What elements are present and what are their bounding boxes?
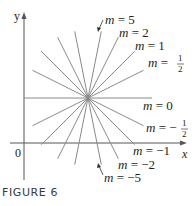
label-m-half: m = 1 2 — [148, 53, 184, 74]
label-m-neg-half: m = − 1 2 — [146, 118, 188, 139]
m5-leader-arrow-icon — [97, 27, 101, 32]
svg-text:2: 2 — [182, 129, 187, 139]
svg-text:1: 1 — [182, 118, 187, 128]
slope-family-diagram: y x 0 m = 5 m = 2 m = 1 m = 1 2 m = 0 m … — [0, 0, 195, 206]
m-neg5-leader-arrow-icon — [97, 163, 101, 168]
label-m0: m = 0 — [143, 98, 173, 113]
label-m-neg1: m = −1 — [133, 143, 170, 158]
y-axis-label: y — [14, 9, 20, 23]
x-axis-arrow-icon — [180, 141, 187, 146]
svg-text:2: 2 — [178, 64, 183, 74]
figure-caption: FIGURE 6 — [2, 186, 58, 199]
label-m1: m = 1 — [135, 38, 165, 53]
svg-text:m = −: m = − — [146, 120, 177, 135]
origin-label: 0 — [15, 146, 21, 160]
svg-text:m =: m = — [148, 55, 168, 70]
m-neg5-leader — [99, 166, 103, 175]
x-axis-label: x — [181, 147, 188, 161]
y-axis-arrow-icon — [22, 12, 27, 19]
svg-text:1: 1 — [178, 53, 183, 63]
label-m-neg5: m = −5 — [104, 170, 141, 185]
